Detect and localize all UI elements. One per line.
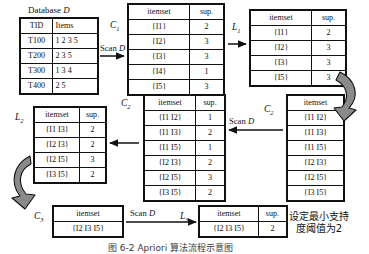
curved-arrow-l2-to-c3 xyxy=(12,156,35,209)
curved-arrow-l1-to-c2 xyxy=(334,72,356,121)
